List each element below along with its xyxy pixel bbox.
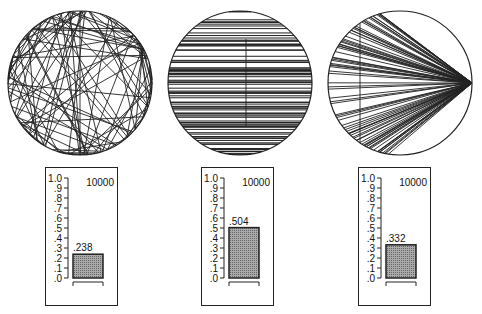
random-chords-circle bbox=[5, 8, 155, 158]
fan-chords-circle bbox=[325, 8, 475, 158]
chord-line bbox=[90, 12, 148, 59]
parallel-chords-circle bbox=[165, 8, 315, 158]
chord-line bbox=[15, 114, 60, 152]
probability-gauge-3: 100001.0.9.8.7.6.5.4.3.2.1.0.332 bbox=[358, 167, 431, 306]
probability-bar bbox=[229, 228, 259, 278]
trials-count-label: 10000 bbox=[242, 177, 270, 188]
probability-value-label: .238 bbox=[73, 242, 93, 253]
bar-base-bracket bbox=[73, 282, 103, 286]
probability-bar bbox=[386, 245, 416, 278]
scale-tick-label: .0 bbox=[210, 273, 219, 284]
trials-count-label: 10000 bbox=[86, 177, 114, 188]
trials-count-label: 10000 bbox=[399, 177, 427, 188]
probability-value-label: .332 bbox=[386, 233, 406, 244]
bar-base-bracket bbox=[386, 282, 416, 286]
probability-bar bbox=[73, 254, 103, 278]
scale-tick-label: .0 bbox=[367, 273, 376, 284]
scale-tick-label: .0 bbox=[54, 273, 63, 284]
chord-line bbox=[20, 123, 65, 153]
probability-gauge-1: 100001.0.9.8.7.6.5.4.3.2.1.0.238 bbox=[45, 167, 118, 306]
probability-value-label: .504 bbox=[229, 216, 249, 227]
chord-line bbox=[23, 39, 148, 59]
probability-gauge-2: 100001.0.9.8.7.6.5.4.3.2.1.0.504 bbox=[201, 167, 274, 306]
bar-base-bracket bbox=[229, 282, 259, 286]
